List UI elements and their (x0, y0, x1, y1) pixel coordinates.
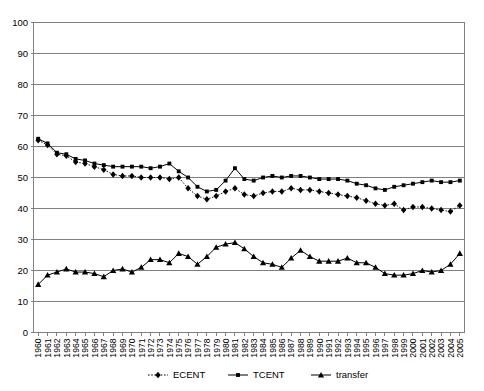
legend-label-transfer: transfer (336, 369, 368, 380)
data-point-marker (236, 373, 240, 377)
data-point-marker (110, 171, 115, 178)
y-axis-tick-label: 50 (17, 172, 28, 183)
data-point-marker (129, 173, 134, 180)
legend-label-TCENT: TCENT (253, 369, 285, 380)
data-point-marker (186, 176, 190, 180)
data-point-marker (354, 194, 359, 201)
data-point-marker (457, 202, 462, 209)
data-point-marker (411, 182, 415, 186)
data-point-marker (270, 174, 274, 178)
data-point-marker (307, 253, 313, 259)
y-axis-tick-label: 60 (17, 141, 28, 152)
data-point-marker (326, 190, 331, 197)
data-point-marker (420, 204, 425, 211)
data-point-marker (260, 190, 265, 197)
data-point-marker (372, 264, 378, 270)
data-point-marker (355, 182, 359, 186)
data-point-marker (401, 207, 406, 214)
data-point-marker (176, 250, 182, 256)
data-point-marker (233, 166, 237, 170)
data-point-marker (289, 174, 293, 178)
data-point-marker (55, 151, 59, 155)
data-point-marker (335, 191, 340, 198)
data-point-marker (139, 174, 144, 181)
data-point-marker (232, 239, 238, 245)
y-axis-tick-label: 20 (17, 265, 28, 276)
data-point-marker (214, 188, 218, 192)
data-point-marker (241, 246, 247, 252)
data-point-marker (420, 180, 424, 184)
data-point-marker (430, 179, 434, 183)
data-point-marker (119, 266, 125, 272)
y-axis-tick-label: 70 (17, 110, 28, 121)
data-point-marker (205, 190, 209, 194)
y-axis-tick-label: 90 (17, 48, 28, 59)
data-point-marker (252, 179, 256, 183)
data-point-marker (155, 372, 160, 379)
data-point-marker (74, 157, 78, 161)
data-point-marker (224, 179, 228, 183)
data-point-marker (195, 193, 200, 200)
data-point-marker (382, 270, 388, 276)
data-point-marker (299, 174, 303, 178)
data-point-marker (213, 193, 218, 200)
data-point-marker (402, 183, 406, 187)
data-point-marker (297, 247, 303, 253)
data-point-marker (438, 207, 443, 214)
data-point-marker (270, 188, 275, 195)
y-axis-tick-label: 80 (17, 79, 28, 90)
data-point-marker (280, 176, 284, 180)
data-point-marker (363, 198, 368, 205)
data-point-marker (308, 176, 312, 180)
gridlines: 0102030405060708090100 (12, 17, 464, 338)
data-point-marker (204, 196, 209, 203)
data-point-marker (448, 208, 453, 215)
series-line (38, 140, 460, 211)
data-point-marker (232, 185, 237, 192)
data-point-marker (64, 152, 68, 156)
data-point-marker (336, 177, 340, 181)
data-point-marker (158, 165, 162, 169)
chart-container: 0102030405060708090100196019611962196319… (0, 0, 484, 391)
data-point-marker (121, 165, 125, 169)
data-point-marker (63, 266, 69, 272)
data-point-marker (449, 180, 453, 184)
x-axis-tick-label: 2005 (455, 338, 465, 357)
y-axis-tick-label: 30 (17, 234, 28, 245)
data-point-marker (344, 255, 350, 261)
series-ECENT (35, 137, 462, 215)
data-point-marker (46, 141, 50, 145)
data-point-marker (83, 159, 87, 163)
data-point-marker (111, 165, 115, 169)
series-transfer (35, 239, 463, 286)
data-point-marker (391, 201, 396, 208)
data-point-marker (102, 163, 106, 167)
data-point-marker (317, 177, 321, 181)
data-point-marker (392, 185, 396, 189)
y-axis-tick-label: 0 (23, 327, 28, 338)
data-point-marker (148, 174, 153, 181)
data-point-marker (457, 250, 463, 256)
data-point-marker (279, 188, 284, 195)
data-point-marker (298, 187, 303, 194)
data-point-marker (149, 166, 153, 170)
data-point-marker (383, 188, 387, 192)
data-point-marker (458, 179, 462, 183)
data-point-marker (101, 167, 106, 174)
y-axis-tick-label: 10 (17, 296, 28, 307)
data-point-marker (242, 177, 246, 181)
data-point-marker (382, 202, 387, 209)
data-point-marker (139, 165, 143, 169)
data-point-marker (120, 173, 125, 180)
data-point-marker (92, 162, 96, 166)
x-axis: 1960196119621963196419651966196719681969… (33, 333, 465, 358)
chart-plot: 0102030405060708090100196019611962196319… (0, 0, 484, 391)
data-point-marker (429, 205, 434, 212)
data-point-marker (157, 174, 162, 181)
chart-legend: ECENTTCENTtransfer (148, 369, 368, 380)
data-point-marker (364, 183, 368, 187)
data-point-marker (327, 177, 331, 181)
series-TCENT (36, 137, 461, 194)
data-point-marker (176, 174, 181, 181)
data-point-marker (345, 179, 349, 183)
